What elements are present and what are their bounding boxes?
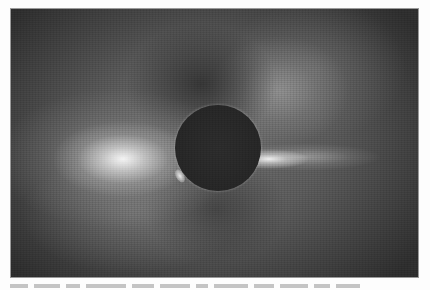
caption-fragment — [86, 284, 126, 288]
caption-fragment — [66, 284, 80, 288]
caption-fragment — [34, 284, 60, 288]
caption-fragment — [254, 284, 274, 288]
film-grain — [11, 9, 418, 277]
eclipse-photo — [10, 8, 419, 278]
caption-fragment — [132, 284, 154, 288]
caption-fragment — [196, 284, 208, 288]
caption-fragment — [336, 284, 360, 288]
page — [0, 0, 430, 290]
caption-fragment — [280, 284, 308, 288]
cropped-caption — [10, 284, 410, 290]
caption-fragment — [160, 284, 190, 288]
caption-fragment — [10, 284, 28, 288]
caption-fragment — [214, 284, 248, 288]
caption-fragment — [314, 284, 330, 288]
